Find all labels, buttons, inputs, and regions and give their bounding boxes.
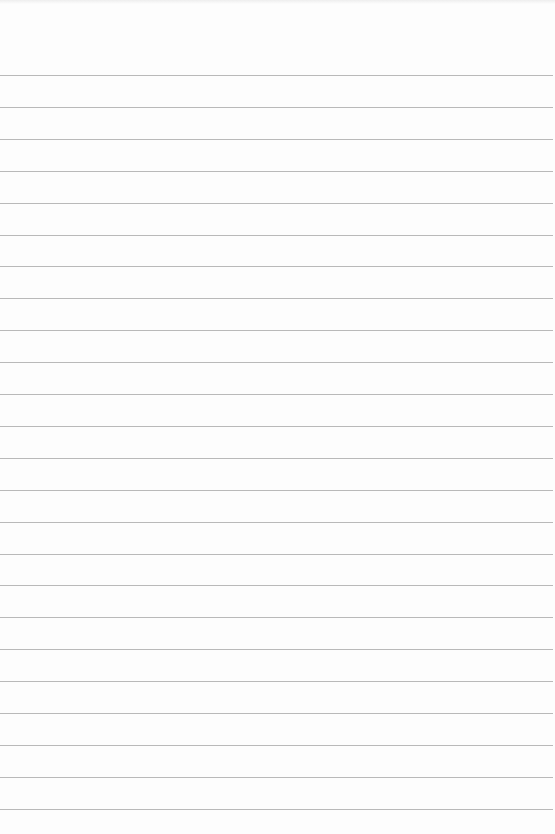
paper-top-edge: [0, 0, 555, 4]
ruled-line: [0, 745, 553, 746]
ruled-line: [0, 298, 553, 299]
ruled-line: [0, 362, 553, 363]
ruled-line: [0, 394, 553, 395]
ruled-line: [0, 585, 553, 586]
ruled-line: [0, 139, 553, 140]
lined-paper-sheet: [0, 0, 555, 834]
ruled-line: [0, 458, 553, 459]
ruled-line: [0, 554, 553, 555]
ruled-line: [0, 203, 553, 204]
ruled-line: [0, 266, 553, 267]
ruled-line: [0, 522, 553, 523]
ruled-line: [0, 809, 553, 810]
ruled-line: [0, 649, 553, 650]
ruled-line: [0, 777, 553, 778]
ruled-line: [0, 330, 553, 331]
ruled-line: [0, 75, 553, 76]
ruled-line: [0, 107, 553, 108]
ruled-line: [0, 713, 553, 714]
ruled-line: [0, 235, 553, 236]
ruled-line: [0, 617, 553, 618]
ruled-line: [0, 681, 553, 682]
ruled-line: [0, 490, 553, 491]
ruled-line: [0, 426, 553, 427]
ruled-line: [0, 171, 553, 172]
